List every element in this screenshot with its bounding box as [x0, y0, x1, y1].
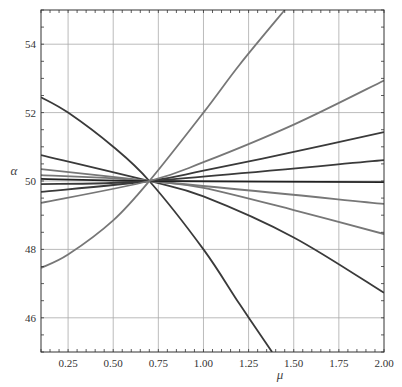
- series-line-curve-9: [41, 10, 285, 268]
- x-tick-label: 1.25: [239, 357, 259, 369]
- series-line-curve-5: [41, 179, 384, 182]
- x-tick-label: 2.00: [374, 357, 394, 369]
- y-tick-labels: 4648505254: [25, 38, 37, 324]
- line-chart: 0.250.500.751.001.251.501.752.00 4648505…: [0, 0, 402, 387]
- x-tick-label: 0.50: [104, 357, 124, 369]
- x-tick-label: 0.75: [149, 357, 169, 369]
- y-tick-label: 52: [25, 107, 36, 119]
- x-tick-label: 1.75: [329, 357, 349, 369]
- y-tick-label: 46: [25, 312, 37, 324]
- series-line-curve-3: [41, 169, 384, 234]
- x-axis-label: μ: [276, 367, 284, 382]
- series-line-curve-1: [41, 97, 272, 352]
- series-line-curve-8: [41, 80, 384, 202]
- x-tick-label: 1.00: [194, 357, 214, 369]
- x-tick-label: 0.25: [58, 357, 78, 369]
- x-tick-label: 1.50: [284, 357, 304, 369]
- x-tick-labels: 0.250.500.751.001.251.501.752.00: [58, 357, 394, 369]
- y-tick-label: 54: [25, 38, 37, 50]
- y-axis-label: α: [11, 163, 19, 178]
- y-tick-label: 48: [25, 243, 37, 255]
- data-series: [41, 10, 384, 352]
- y-tick-label: 50: [25, 175, 37, 187]
